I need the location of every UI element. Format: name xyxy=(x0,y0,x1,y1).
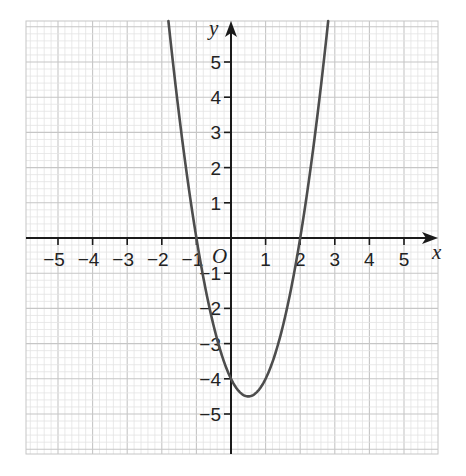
y-tick-label: −4 xyxy=(199,369,221,390)
parabola-curve xyxy=(168,21,328,396)
x-tick-label: −2 xyxy=(147,249,169,270)
y-tick-label: −5 xyxy=(199,404,221,425)
origin-label: O xyxy=(212,244,227,268)
y-tick-label: 3 xyxy=(210,122,221,143)
x-tick-label: −4 xyxy=(78,249,100,270)
x-tick-label: 1 xyxy=(260,249,271,270)
x-tick-label: 5 xyxy=(399,249,410,270)
x-tick-label: 3 xyxy=(330,249,341,270)
x-tick-label: −5 xyxy=(43,249,65,270)
y-axis-label: y xyxy=(207,16,219,40)
x-tick-label: 4 xyxy=(364,249,375,270)
graph: −5−4−3−2−112345−5−4−3−2−112345 x y O xyxy=(0,0,466,476)
y-tick-label: 2 xyxy=(210,158,221,179)
y-tick-label: 4 xyxy=(210,87,221,108)
y-tick-label: 1 xyxy=(210,193,221,214)
x-tick-label: −3 xyxy=(112,249,134,270)
y-tick-label: 5 xyxy=(210,52,221,73)
x-axis-label: x xyxy=(431,240,442,264)
